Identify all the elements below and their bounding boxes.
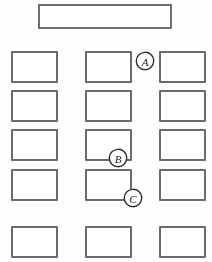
grid-box-r1c2[interactable] [85,51,132,83]
marker-c-letter: C [129,193,137,205]
grid-box-r3c3[interactable] [159,129,206,161]
grid-box-r5c3[interactable] [159,226,206,258]
diagram-canvas: ABC [0,0,212,262]
grid-box-r2c2[interactable] [85,90,132,122]
marker-c-icon: C [123,188,143,208]
marker-b-icon: B [108,148,128,168]
grid-box-r2c3[interactable] [159,90,206,122]
grid-box-r4c3[interactable] [159,169,206,201]
grid-box-r3c1[interactable] [11,129,58,161]
grid-box-r5c1[interactable] [11,226,58,258]
marker-a-letter: A [141,56,149,68]
grid-box-r1c1[interactable] [11,51,58,83]
grid-box-r5c2[interactable] [85,226,132,258]
grid-box-r2c1[interactable] [11,90,58,122]
grid-box-r4c1[interactable] [11,169,58,201]
grid-box-r1c3[interactable] [159,51,206,83]
banner-box[interactable] [38,4,172,29]
marker-b-letter: B [115,153,122,165]
marker-a-icon: A [135,51,155,71]
